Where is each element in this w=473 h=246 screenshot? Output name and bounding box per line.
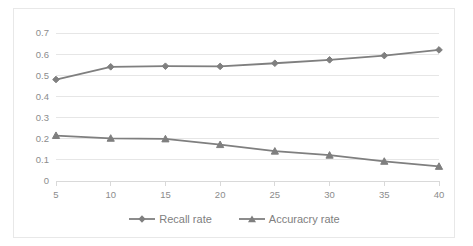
x-axis-tick-label: 40	[434, 189, 445, 200]
x-axis-tick-label: 30	[324, 189, 335, 200]
data-point-marker	[217, 63, 224, 70]
y-axis-tick-label: 0.4	[36, 91, 49, 102]
diamond-marker-icon	[128, 213, 156, 225]
legend-label-recall-rate: Recall rate	[159, 213, 212, 225]
x-axis-tick-label: 15	[160, 189, 171, 200]
data-point-marker	[272, 60, 279, 67]
data-series	[52, 47, 442, 170]
y-axis-tick-label: 0.1	[36, 154, 49, 165]
y-axis-tick-label: 0.5	[36, 70, 49, 81]
y-axis-tick-label: 0	[44, 175, 49, 186]
chart-container: 0.70.60.50.40.30.20.10 510152025303540 R…	[13, 8, 455, 238]
legend-item-recall-rate[interactable]: Recall rate	[128, 213, 212, 225]
data-point-marker	[162, 63, 169, 70]
chart-legend: Recall rate Accuracry rate	[14, 213, 454, 225]
x-axis-tick-label: 25	[270, 189, 281, 200]
y-axis-tick-label: 0.6	[36, 49, 49, 60]
y-axis-tick-label: 0.3	[36, 112, 49, 123]
legend-label-accuracry-rate: Accuracry rate	[269, 213, 340, 225]
data-point-marker	[53, 76, 60, 83]
line-chart-plot: 0.70.60.50.40.30.20.10 510152025303540	[14, 9, 454, 237]
x-axis-tick-label: 35	[379, 189, 390, 200]
y-axis-tick-label: 0.7	[36, 27, 49, 38]
y-axis-tick-labels: 0.70.60.50.40.30.20.10	[36, 27, 49, 186]
data-point-marker	[436, 47, 443, 54]
x-axis-tick-label: 10	[105, 189, 116, 200]
data-point-marker	[107, 64, 114, 71]
data-point-marker	[326, 57, 333, 64]
data-point-marker	[381, 52, 388, 59]
triangle-marker-icon	[238, 213, 266, 225]
x-axis-tick-label: 20	[215, 189, 226, 200]
x-axis-tick-label: 5	[53, 189, 58, 200]
x-axis-tick-labels: 510152025303540	[53, 181, 444, 200]
y-axis-tick-label: 0.2	[36, 133, 49, 144]
legend-item-accuracry-rate[interactable]: Accuracry rate	[238, 213, 340, 225]
